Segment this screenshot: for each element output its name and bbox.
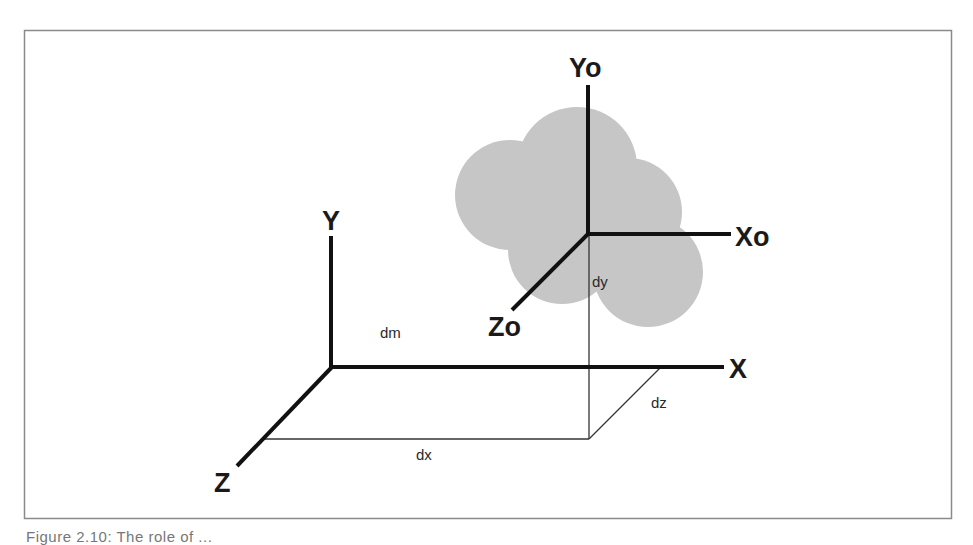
dy-label: dy: [592, 273, 608, 290]
world-z-label: Z: [214, 468, 231, 498]
object-y-label: Yo: [569, 53, 602, 83]
world-z-axis: [237, 367, 332, 466]
object-blob: [455, 107, 703, 327]
world-x-label: X: [729, 354, 747, 384]
world-y-label: Y: [322, 206, 340, 236]
dm-label: dm: [380, 324, 401, 341]
figure-caption: Figure 2.10: The role of ...: [26, 528, 212, 545]
dz-guide-line: [589, 368, 660, 439]
dz-label: dz: [651, 394, 667, 411]
object-x-label: Xo: [735, 222, 770, 252]
figure-frame: [25, 31, 952, 519]
object-z-label: Zo: [488, 312, 521, 342]
dx-label: dx: [416, 446, 432, 463]
